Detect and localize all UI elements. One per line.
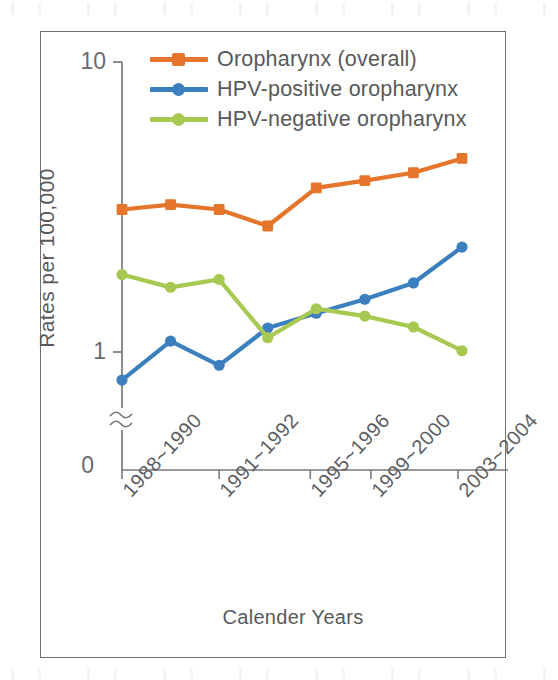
legend-item-hpv-positive: HPV-positive oropharynx bbox=[150, 74, 467, 104]
y-tick-label-10: 10 bbox=[72, 48, 106, 75]
legend-label: HPV-positive oropharynx bbox=[217, 77, 458, 102]
x-axis-title: Calender Years bbox=[158, 606, 428, 629]
y-tick-label-0: 0 bbox=[60, 452, 94, 479]
series-layer bbox=[116, 153, 467, 386]
y-axis-title: Rates per 100,000 bbox=[35, 148, 59, 368]
legend-item-hpv-negative: HPV-negative oropharynx bbox=[150, 104, 467, 134]
legend-label: HPV-negative oropharynx bbox=[217, 107, 467, 132]
legend-swatch-blue bbox=[150, 82, 208, 96]
legend-swatch-orange bbox=[150, 52, 208, 66]
chart-legend: Oropharynx (overall) HPV-positive oropha… bbox=[150, 44, 467, 134]
y-tick-label-1: 1 bbox=[72, 338, 106, 365]
legend-swatch-green bbox=[150, 112, 208, 126]
legend-label: Oropharynx (overall) bbox=[217, 47, 417, 72]
legend-item-oropharynx-overall: Oropharynx (overall) bbox=[150, 44, 467, 74]
